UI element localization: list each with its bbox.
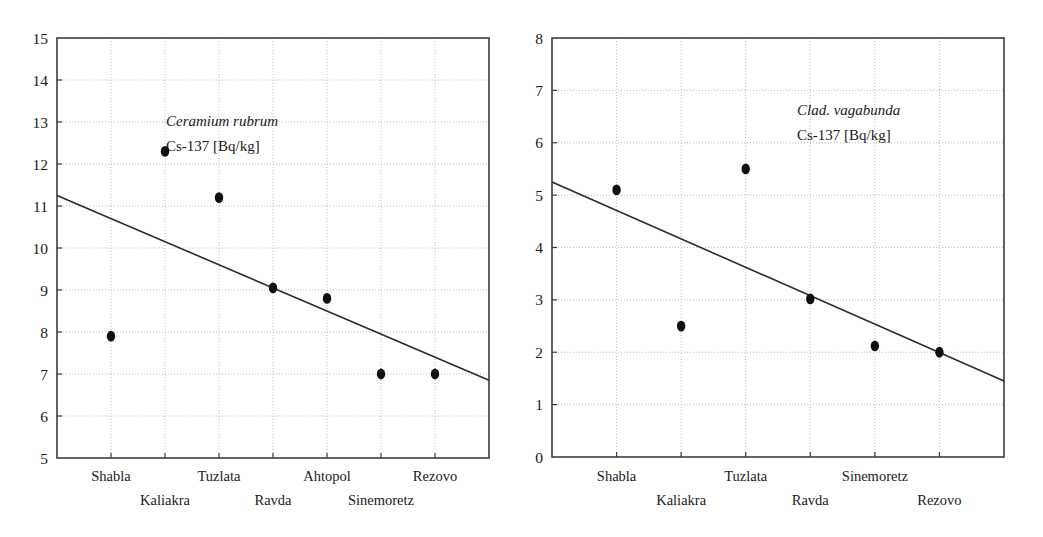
gridlines-group	[552, 38, 1004, 457]
x-axis-category-label: Kaliakra	[656, 492, 706, 508]
annotation-species-name: Clad. vagabunda	[797, 102, 900, 118]
data-points-group	[612, 164, 943, 358]
x-axis-category-label: Rezovo	[917, 492, 961, 508]
data-point	[431, 369, 439, 380]
y-axis-tick-label: 6	[40, 408, 48, 425]
y-axis-tick-label: 10	[33, 240, 49, 257]
x-axis-category-label: Tuzlata	[724, 468, 768, 484]
y-axis-tick-label: 11	[33, 198, 48, 215]
y-axis-tick-label: 3	[535, 291, 543, 308]
y-axis-tick-label: 5	[535, 187, 543, 204]
data-point	[871, 341, 879, 352]
y-axis-tick-label: 9	[40, 282, 48, 299]
data-point	[677, 321, 685, 332]
y-axis-tick-label: 5	[40, 450, 48, 467]
figure-root: 56789101112131415ShablaKaliakraTuzlataRa…	[0, 0, 1043, 537]
y-axis-tick-label: 7	[535, 82, 543, 99]
x-axis-category-label: Sinemoretz	[348, 492, 415, 508]
chart-panel-ceramium-rubrum: 56789101112131415ShablaKaliakraTuzlataRa…	[0, 0, 521, 537]
category-labels-group: ShablaKaliakraTuzlataRavdaSinemoretzRezo…	[597, 468, 962, 508]
data-point	[215, 192, 223, 203]
y-axis-tick-label: 12	[33, 156, 49, 173]
scatter-chart-ceramium-rubrum: 56789101112131415ShablaKaliakraTuzlataRa…	[0, 0, 521, 537]
data-point	[107, 331, 115, 342]
annotation-nuclide-label: Cs-137 [Bq/kg]	[166, 138, 260, 154]
data-point	[806, 293, 814, 304]
category-labels-group: ShablaKaliakraTuzlataRavdaAhtopolSinemor…	[91, 468, 457, 508]
x-axis-category-label: Sinemoretz	[842, 468, 909, 484]
x-axis-category-label: Shabla	[91, 468, 131, 484]
annotation-nuclide-label: Cs-137 [Bq/kg]	[797, 127, 891, 143]
annotation-species-name: Ceramium rubrum	[166, 113, 278, 129]
y-axis-tick-label: 4	[535, 239, 543, 256]
y-axis-tick-label: 6	[535, 134, 543, 151]
y-axis-tick-label: 1	[535, 396, 543, 413]
x-axis-category-label: Kaliakra	[140, 492, 190, 508]
x-axis-category-label: Rezovo	[413, 468, 457, 484]
y-axis-tick-label: 2	[535, 344, 543, 361]
y-axis-tick-label: 13	[33, 114, 49, 131]
gridlines-group	[57, 38, 489, 458]
scatter-chart-clad-vagabunda: 012345678ShablaKaliakraTuzlataRavdaSinem…	[521, 0, 1043, 537]
x-axis-category-label: Ahtopol	[303, 468, 351, 484]
y-axis-tick-label: 14	[33, 72, 49, 89]
y-axis-tick-label: 7	[40, 366, 48, 383]
x-axis-category-label: Ravda	[254, 492, 292, 508]
chart-panel-clad-vagabunda: 012345678ShablaKaliakraTuzlataRavdaSinem…	[521, 0, 1043, 537]
data-point	[269, 283, 277, 294]
x-axis-category-label: Ravda	[792, 492, 830, 508]
x-axis-category-label: Shabla	[597, 468, 637, 484]
data-point	[935, 347, 943, 358]
data-point	[612, 184, 620, 195]
y-axis-tick-label: 15	[33, 30, 49, 47]
data-point	[742, 164, 750, 175]
data-point	[377, 369, 385, 380]
y-axis-tick-label: 8	[40, 324, 48, 341]
x-axis-category-label: Tuzlata	[198, 468, 242, 484]
y-axis-tick-label: 0	[535, 449, 543, 466]
y-axis-group: 012345678	[535, 30, 557, 466]
data-point	[323, 293, 331, 304]
y-axis-tick-label: 8	[535, 30, 543, 47]
